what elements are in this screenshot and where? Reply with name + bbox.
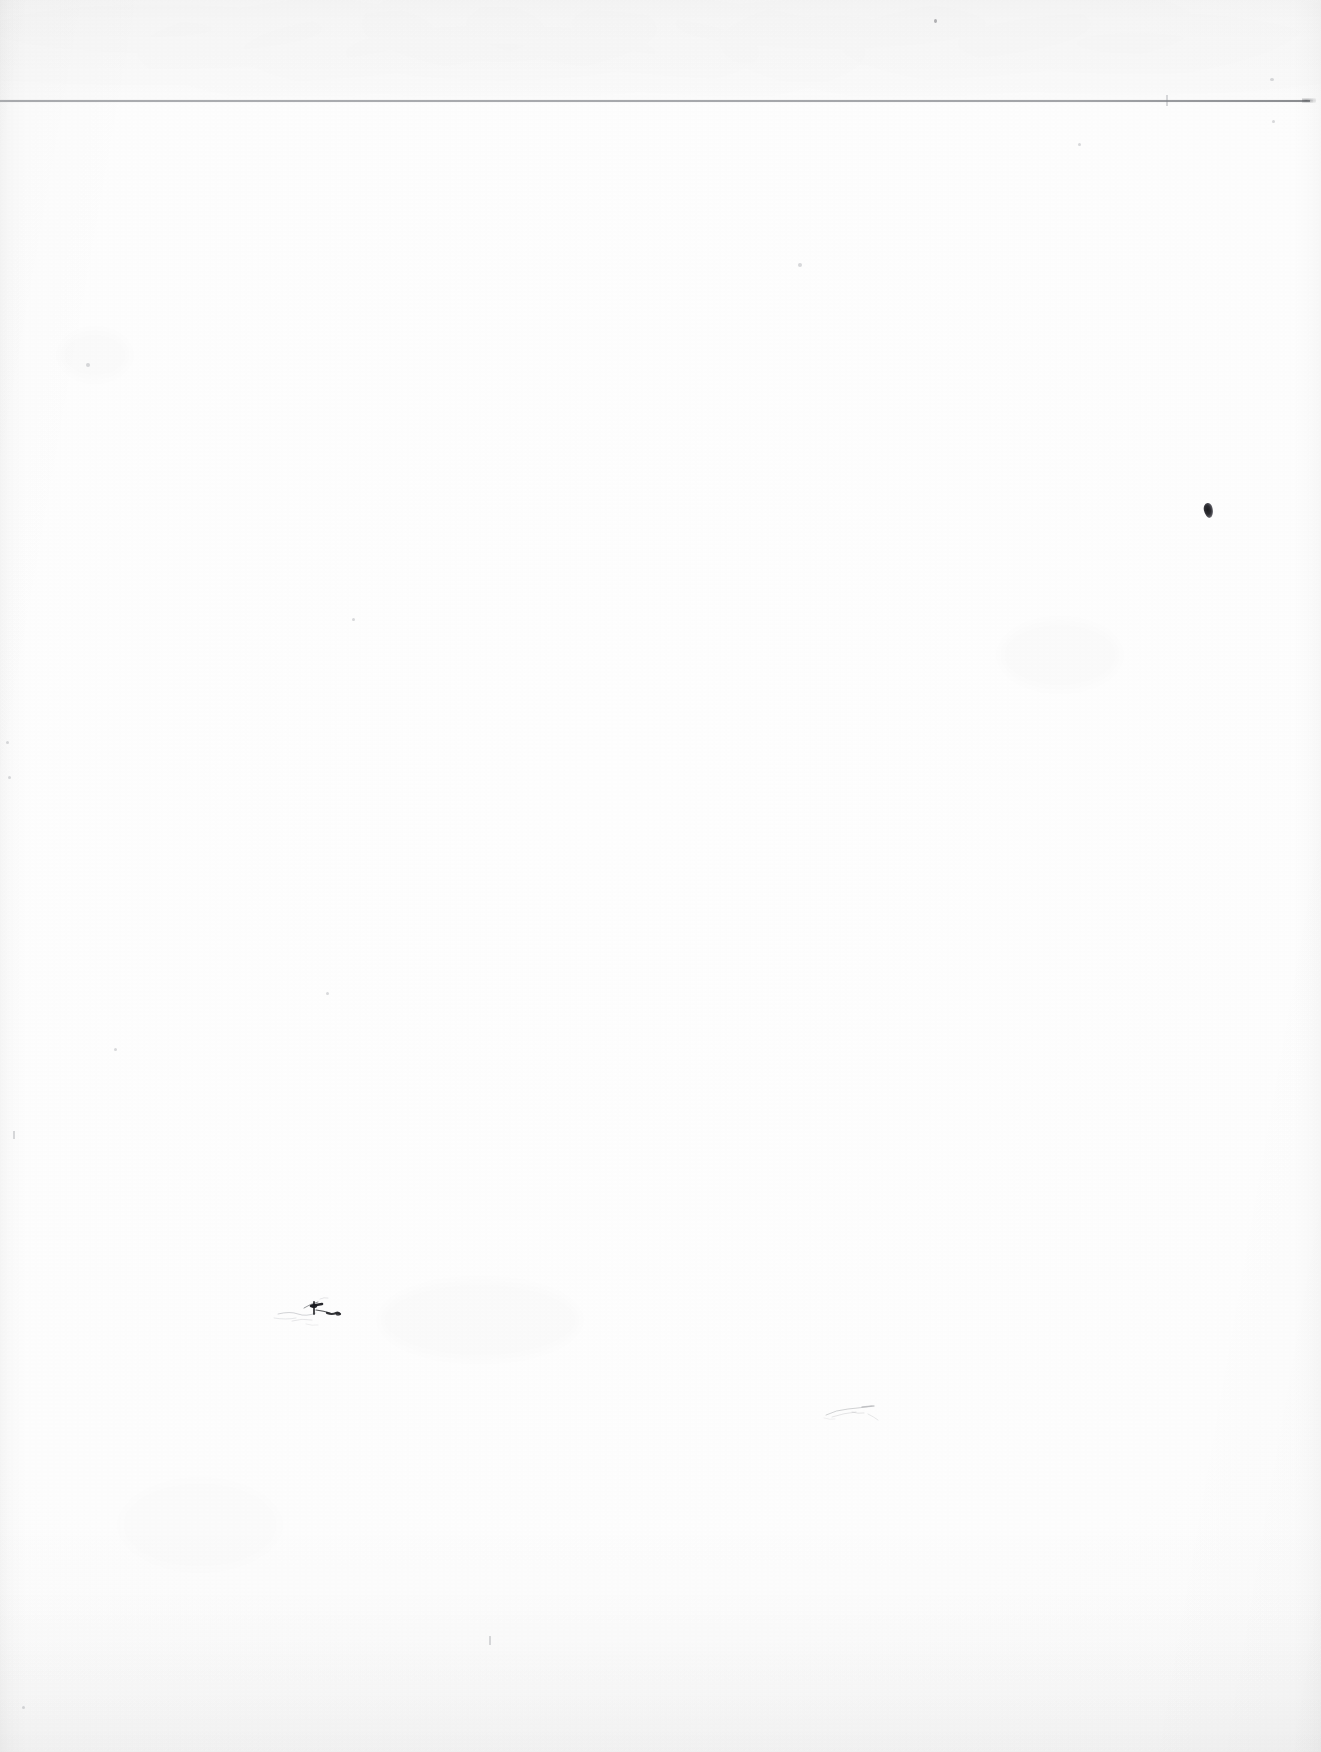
page-body-text xyxy=(120,160,1200,1560)
scanned-page xyxy=(0,0,1321,1752)
sheet-edge-rule xyxy=(0,100,1310,102)
